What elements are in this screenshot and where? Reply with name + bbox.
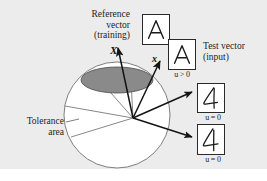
- handwritten-a-icon: [198, 84, 224, 112]
- handwritten-four-icon: [198, 125, 224, 154]
- test-glyph-box: [168, 39, 196, 70]
- figure-tolerance-cone-diagram: Reference vector (training) Test vector …: [0, 0, 267, 181]
- reference-vector-label: Reference vector (training): [48, 9, 130, 41]
- reject-glyph-box-1: [197, 83, 225, 113]
- printed-a-icon: [143, 15, 169, 44]
- figure-bottom-margin: [0, 169, 267, 181]
- reference-glyph-box: [142, 14, 170, 45]
- reject-glyph-box-2: [197, 124, 225, 155]
- printed-a-icon: [169, 40, 195, 69]
- tolerance-area-ellipse: [81, 67, 153, 93]
- tolerance-area-label: Tolerance area: [2, 116, 64, 137]
- test-vector-label: Test vector (input): [203, 41, 267, 62]
- reference-vector-symbol: X: [110, 44, 117, 56]
- diagram-canvas: [0, 0, 267, 181]
- activation-reject-2: u = 0: [192, 155, 234, 164]
- activation-reject-1: u = 0: [192, 113, 234, 122]
- test-vector-symbol: x: [152, 53, 157, 64]
- activation-test-accepted: u > 0: [164, 70, 200, 79]
